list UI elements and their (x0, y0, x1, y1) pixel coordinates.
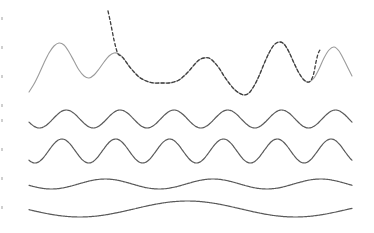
scan-edge-artifact-3 (1, 104, 3, 107)
scan-edge-artifact-7 (1, 206, 3, 209)
scan-edge-artifact-6 (1, 177, 3, 180)
scan-edge-artifact-0 (1, 17, 3, 20)
scan-edge-artifact-2 (1, 75, 3, 78)
waveform-figure-canvas (0, 0, 374, 233)
scan-edge-artifact-4 (1, 119, 3, 122)
waveform-figure (0, 0, 374, 233)
scan-edge-artifact-5 (1, 148, 3, 151)
scan-edge-artifact-1 (1, 46, 3, 49)
